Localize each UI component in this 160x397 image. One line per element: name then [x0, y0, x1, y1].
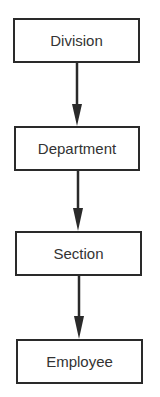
- node-label: Section: [53, 245, 103, 262]
- node-employee: Employee: [16, 339, 143, 384]
- node-label: Department: [38, 140, 116, 157]
- node-section: Section: [15, 231, 142, 276]
- node-division: Division: [13, 18, 140, 63]
- arrow-section-to-employee: [74, 275, 84, 339]
- arrow-division-to-department: [72, 62, 82, 126]
- arrow-department-to-section: [73, 170, 83, 231]
- node-label: Division: [50, 32, 103, 49]
- node-department: Department: [14, 126, 140, 171]
- node-label: Employee: [46, 353, 113, 370]
